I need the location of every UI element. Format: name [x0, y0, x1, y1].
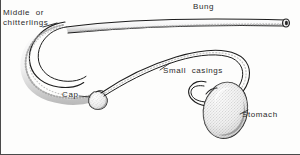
middle-inner-contour	[38, 27, 86, 81]
frame-bottom-rule	[0, 154, 300, 155]
bung-open-end-lumen	[285, 21, 288, 25]
middle-chitterlings-part	[20, 22, 99, 105]
label-middle-chitterlings: Middle orchitterlings	[3, 8, 48, 27]
label-small-casings: Small casings	[163, 66, 223, 76]
figure-container: Middle orchitterlings Bung Small casings…	[0, 0, 300, 155]
label-cap: Cap	[62, 90, 78, 100]
label-stomach: Stomach	[242, 110, 278, 120]
middle-tube-body	[20, 22, 99, 105]
bung-part	[66, 19, 289, 33]
frame-left-rule	[0, 0, 1, 155]
label-bung: Bung	[193, 2, 214, 12]
label-middle-line2: chitterlings	[3, 18, 48, 27]
label-middle-line1: Middle or	[3, 8, 44, 17]
